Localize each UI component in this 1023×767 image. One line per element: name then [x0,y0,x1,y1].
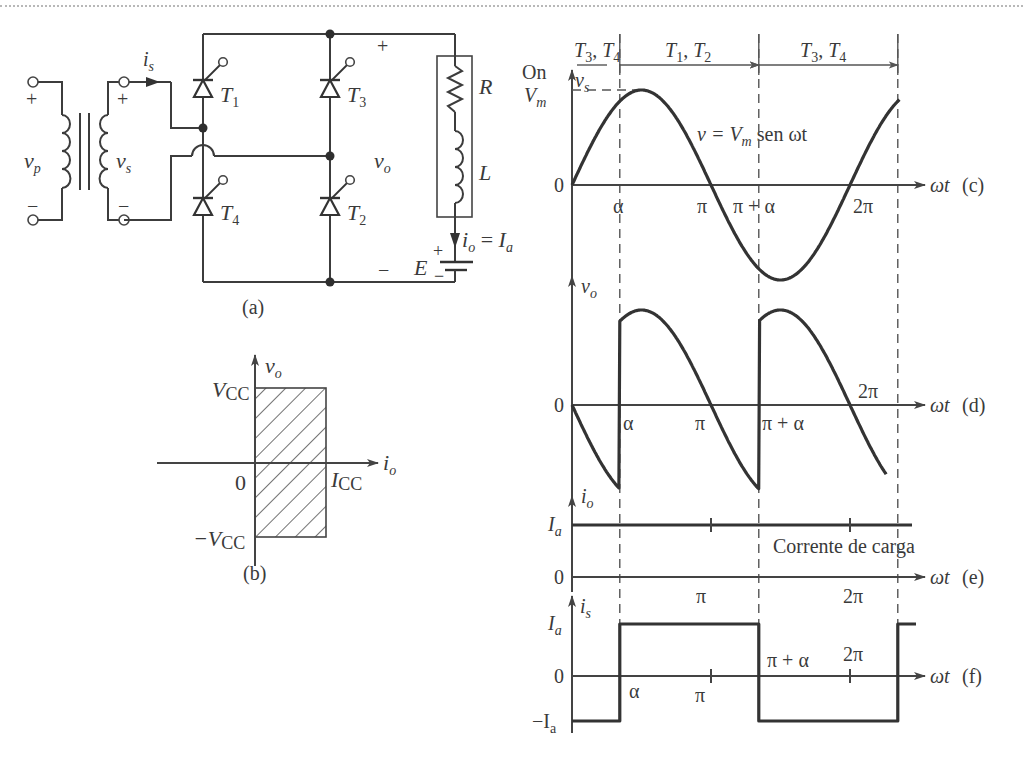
secondary-winding [100,115,108,188]
panel-c-xlabel: ωt [930,174,950,196]
panel-c-annotation: v = Vm sen ωt [697,123,808,149]
panel-d-tick-2pi: 2π [858,380,878,402]
waveform-plots: On T3, T4 T1, T2 T3, T4 vs Vm 0 α π π + … [522,34,985,736]
panel-f-tick-pi: π [695,684,705,706]
quadrant-neg-vcc-label: −VCC [193,526,245,553]
figure-canvas: + − vp + − vs is [0,0,1023,767]
output-minus-sign: − [378,259,389,281]
resistor-icon [448,66,462,112]
battery-label: E [413,255,428,280]
panel-e-tick-pi: π [696,585,706,607]
secondary-terminal-top [119,77,129,87]
panel-c-zero-label: 0 [554,174,564,196]
primary-winding [62,115,70,188]
primary-terminal-top [28,77,38,87]
panel-d-zero-label: 0 [554,394,564,416]
panel-e-xlabel: ωt [930,566,950,588]
panel-f-neg-ia-label: −Ia [532,710,557,736]
panel-d-tick-pi: π [695,412,705,434]
panel-label-d: (d) [962,394,985,417]
primary-plus-sign: + [26,88,37,110]
panel-f-series-is [572,624,916,721]
panel-c-tick-pi: π [697,195,707,217]
panel-e-ia-label: Ia [547,513,562,539]
operating-quadrant-diagram: vo io VCC −VCC 0 ICC (b) [157,353,396,585]
inductor-label: L [478,160,491,185]
quadrant-vcc-label: VCC [212,377,249,404]
transformer [28,77,129,225]
thyristor-t1-label: T1 [220,82,239,110]
load-current-arrow-icon [450,233,460,248]
primary-minus-sign: − [27,195,38,217]
secondary-minus-sign: − [118,195,129,217]
panel-label-f: (f) [962,665,982,688]
panel-d-tick-pi-alpha: π + α [762,412,804,434]
primary-voltage-label: vp [24,148,41,176]
interval-label-2: T3, T4 [800,39,846,65]
junction-top [326,30,335,39]
thyristor-t3-label: T3 [347,82,366,110]
panel-d-ylabel: vo [581,275,597,301]
resistor-label: R [478,74,493,99]
interval-label-0: T3, T4 [574,39,620,65]
panel-label-c: (c) [962,174,984,197]
panel-label-a: (a) [242,296,264,319]
quadrant-icc-label: ICC [330,467,362,494]
quadrant-y-label: vo [265,353,282,381]
battery-minus-sign: − [434,266,444,286]
panel-f-ia-label: Ia [547,612,562,638]
circuit-diagram: + − vp + − vs is [24,30,513,320]
on-label: On [522,61,546,83]
panel-c-tick-2pi: 2π [853,195,873,217]
panel-d-xlabel: ωt [930,394,950,416]
panel-e-zero-label: 0 [554,566,564,588]
panel-label-b: (b) [243,562,266,585]
panel-d-series-vo [572,310,886,489]
thyristor-t4-label: T4 [220,200,239,228]
secondary-current-arrow-icon [146,77,160,87]
inductor-icon [455,131,463,203]
secondary-voltage-label: vs [116,148,132,176]
load-current-label: io = Ia [462,227,513,255]
panel-f-xlabel: ωt [930,665,950,687]
junction-bottom [326,278,335,287]
panel-c-tick-pi-alpha: π + α [733,195,775,217]
interval-label-1: T1, T2 [665,39,711,65]
battery-icon [440,262,473,282]
panel-f-zero-label: 0 [554,665,564,687]
secondary-current-label: is [143,48,155,74]
thyristor-t2-label: T2 [347,200,366,228]
panel-c-tick-alpha: α [613,195,624,217]
panel-c-ylabel: vs [575,69,590,95]
junction-right [326,152,335,161]
panel-f-tick-pi-alpha: π + α [767,649,809,671]
panel-f-tick-2pi: 2π [843,643,863,665]
quadrant-x-label: io [383,450,396,478]
output-voltage-label: vo [374,148,391,176]
junction-left [199,124,208,133]
quadrant-origin-label: 0 [235,470,246,495]
panel-c-vm-label: Vm [524,84,546,110]
output-plus-sign: + [377,35,388,57]
battery-plus-sign: + [433,241,443,261]
panel-e-ylabel: io [581,485,594,511]
panel-e-annotation: Corrente de carga [773,535,915,558]
panel-f-ylabel: is [580,595,592,621]
panel-f-tick-alpha: α [629,680,640,702]
panel-e-tick-2pi: 2π [843,585,863,607]
panel-d-tick-alpha: α [623,412,634,434]
panel-label-e: (e) [962,566,984,589]
secondary-plus-sign: + [117,88,128,110]
